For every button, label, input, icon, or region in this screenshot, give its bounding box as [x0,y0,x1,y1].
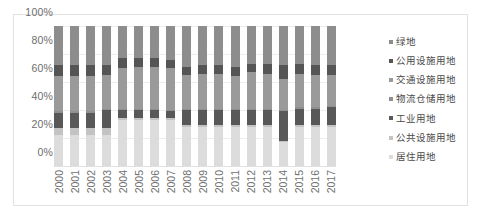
bar-column[interactable] [150,26,159,166]
bar-column[interactable] [327,26,336,166]
legend-item[interactable]: 公共设施用地 [389,128,479,147]
legend-item[interactable]: 物流仓储用地 [389,90,479,109]
bar-segment[interactable] [70,76,79,111]
bar-segment[interactable] [263,64,272,74]
bar-segment[interactable] [182,127,191,166]
bar-column[interactable] [231,26,240,166]
bar-segment[interactable] [295,127,304,166]
bar-segment[interactable] [118,58,127,68]
bar-segment[interactable] [327,75,336,106]
bar-segment[interactable] [86,128,95,135]
bar-segment[interactable] [70,65,79,76]
bar-segment[interactable] [198,26,207,65]
bar-segment[interactable] [295,26,304,64]
bar-segment[interactable] [70,26,79,65]
bar-segment[interactable] [86,135,95,166]
bar-segment[interactable] [70,135,79,166]
bar-column[interactable] [54,26,63,166]
bar-segment[interactable] [166,120,175,166]
bar-segment[interactable] [86,26,95,65]
bar-segment[interactable] [311,75,320,107]
bar-segment[interactable] [182,67,191,75]
bar-segment[interactable] [279,26,288,65]
bar-segment[interactable] [86,76,95,111]
bar-segment[interactable] [247,72,256,108]
bar-segment[interactable] [54,128,63,135]
bar-segment[interactable] [134,67,143,109]
bar-column[interactable] [279,26,288,166]
bar-segment[interactable] [231,76,240,108]
bar-segment[interactable] [102,128,111,135]
bar-segment[interactable] [166,60,175,68]
bar-segment[interactable] [198,110,207,125]
bar-segment[interactable] [118,26,127,58]
bar-segment[interactable] [150,110,159,118]
bar-segment[interactable] [134,120,143,166]
bar-segment[interactable] [198,74,207,109]
bar-segment[interactable] [86,113,95,128]
bar-segment[interactable] [263,26,272,64]
bar-column[interactable] [182,26,191,166]
bar-column[interactable] [263,26,272,166]
bar-segment[interactable] [182,75,191,109]
bar-segment[interactable] [102,65,111,75]
bar-segment[interactable] [118,120,127,166]
bar-column[interactable] [134,26,143,166]
bar-segment[interactable] [102,135,111,166]
bar-segment[interactable] [150,26,159,58]
bar-segment[interactable] [214,26,223,65]
bar-segment[interactable] [102,26,111,65]
bar-segment[interactable] [150,120,159,166]
bar-column[interactable] [295,26,304,166]
bar-segment[interactable] [134,26,143,58]
bar-segment[interactable] [263,110,272,125]
bar-segment[interactable] [214,74,223,109]
legend-item[interactable]: 工业用地 [389,109,479,128]
bar-segment[interactable] [150,67,159,109]
bar-segment[interactable] [247,127,256,166]
legend-item[interactable]: 交通设施用地 [389,70,479,89]
bar-segment[interactable] [295,74,304,108]
bar-segment[interactable] [279,111,288,140]
bar-segment[interactable] [134,58,143,66]
bar-column[interactable] [70,26,79,166]
legend-item[interactable]: 绿地 [389,32,479,51]
bar-segment[interactable] [102,110,111,128]
bar-segment[interactable] [295,64,304,74]
bar-segment[interactable] [311,26,320,65]
bar-segment[interactable] [166,68,175,110]
bar-column[interactable] [166,26,175,166]
bar-segment[interactable] [166,26,175,60]
legend-item[interactable]: 公用设施用地 [389,51,479,70]
bar-segment[interactable] [70,128,79,135]
bar-segment[interactable] [198,127,207,166]
bar-segment[interactable] [279,142,288,166]
bar-segment[interactable] [247,26,256,64]
bar-segment[interactable] [311,65,320,75]
bar-segment[interactable] [327,65,336,75]
bar-segment[interactable] [86,65,95,76]
bar-segment[interactable] [198,65,207,73]
bar-segment[interactable] [263,74,272,109]
bar-segment[interactable] [327,26,336,65]
bar-segment[interactable] [214,110,223,125]
bar-segment[interactable] [327,127,336,166]
bar-segment[interactable] [247,110,256,125]
bar-segment[interactable] [102,75,111,109]
bar-segment[interactable] [118,110,127,118]
bar-segment[interactable] [247,64,256,72]
bar-column[interactable] [214,26,223,166]
bar-segment[interactable] [231,127,240,166]
bar-segment[interactable] [311,127,320,166]
bar-segment[interactable] [54,135,63,166]
bar-column[interactable] [86,26,95,166]
bar-segment[interactable] [263,127,272,166]
bar-segment[interactable] [150,58,159,66]
legend-item[interactable]: 居住用地 [389,147,479,166]
bar-segment[interactable] [54,65,63,76]
bar-column[interactable] [102,26,111,166]
bar-segment[interactable] [70,113,79,128]
bar-segment[interactable] [231,67,240,77]
bar-segment[interactable] [134,110,143,118]
bar-segment[interactable] [214,127,223,166]
